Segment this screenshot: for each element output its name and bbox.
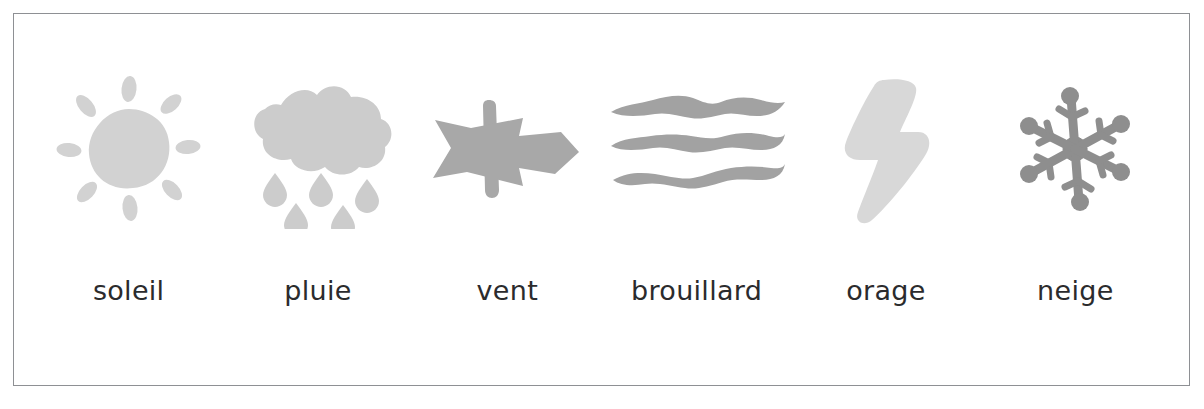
weather-card-pluie[interactable]: pluie [223,20,412,379]
weather-label: pluie [284,276,351,306]
weather-label: orage [846,276,925,306]
weather-label: brouillard [631,276,762,306]
weather-card-neige[interactable]: neige [981,20,1170,379]
weather-card-soleil[interactable]: soleil [34,20,223,379]
weather-vocabulary-poster: soleil [0,0,1204,409]
snowflake-icon [981,20,1170,270]
weather-label: soleil [93,276,165,306]
sun-icon [34,20,223,270]
lightning-bolt-icon [791,20,980,270]
wind-arrow-icon [413,20,602,270]
weather-label: vent [477,276,539,306]
weather-card-row: soleil [20,20,1184,379]
weather-card-brouillard[interactable]: brouillard [602,20,791,379]
rain-cloud-icon [223,20,412,270]
weather-card-orage[interactable]: orage [791,20,980,379]
weather-label: neige [1037,276,1113,306]
weather-card-vent[interactable]: vent [413,20,602,379]
fog-icon [602,20,791,270]
